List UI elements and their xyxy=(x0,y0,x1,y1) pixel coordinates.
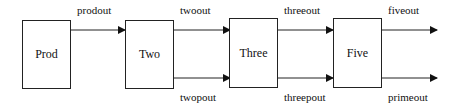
edge-label-twopout: twopout xyxy=(180,91,216,103)
edge-label-primeout: primeout xyxy=(388,91,428,103)
node-two: Two xyxy=(125,20,174,89)
node-three: Three xyxy=(229,18,278,88)
edge-label-threepout: threepout xyxy=(284,91,326,103)
edge-label-threeout: threeout xyxy=(284,4,320,16)
node-label: Five xyxy=(347,46,368,61)
node-prod: Prod xyxy=(22,20,71,89)
edge-label-twoout: twoout xyxy=(180,4,211,16)
node-five: Five xyxy=(333,18,382,88)
node-label: Prod xyxy=(35,47,58,62)
node-label: Three xyxy=(240,46,268,61)
edge-label-fiveout: fiveout xyxy=(388,4,419,16)
edge-label-prodout: prodout xyxy=(77,4,111,16)
node-label: Two xyxy=(139,47,160,62)
